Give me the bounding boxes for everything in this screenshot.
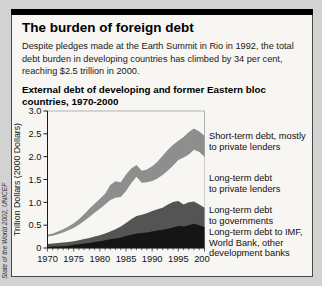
legend-label-line: Long-term debt xyxy=(209,173,280,184)
x-tick-label: 1985 xyxy=(116,254,137,264)
legend-label-long-term-governments: Long-term debtto governments xyxy=(209,205,273,226)
legend-label-line: Short-term debt, mostly xyxy=(209,131,306,142)
legend-label-line: to governments xyxy=(209,216,273,227)
chart-legend: Short-term debt, mostlyto private lender… xyxy=(209,0,321,286)
x-tick-label: 1995 xyxy=(168,254,189,264)
legend-label-line: development banks xyxy=(209,248,303,259)
source-credit: State of the World 2002, UNICEF xyxy=(1,183,8,279)
y-tick-label: 0 xyxy=(36,243,41,253)
legend-label-short-term: Short-term debt, mostlyto private lender… xyxy=(209,131,306,152)
x-tick-label: 1990 xyxy=(142,254,163,264)
y-tick-label: 1.0 xyxy=(29,198,42,208)
y-tick-label: 0.5 xyxy=(29,220,42,230)
y-tick-label: 1.5 xyxy=(29,175,42,185)
legend-label-line: to private lenders xyxy=(209,184,280,195)
y-tick-label: 2.5 xyxy=(29,129,42,139)
legend-label-line: World Bank, other xyxy=(209,238,303,249)
legend-label-line: Long-term debt to IMF, xyxy=(209,227,303,238)
legend-label-long-term-private: Long-term debtto private lenders xyxy=(209,173,280,194)
y-tick-label: 2.0 xyxy=(29,152,42,162)
legend-label-line: to private lenders xyxy=(209,142,306,153)
y-axis-label: Trillion Dollars (2000 Dollars) xyxy=(14,123,22,236)
y-tick-label: 3.0 xyxy=(29,106,42,116)
x-tick-label: 1975 xyxy=(63,254,84,264)
page-title: The burden of foreign debt xyxy=(22,20,194,35)
stacked-area-chart: 00.51.01.52.02.53.0197019751980198519901… xyxy=(14,106,210,268)
legend-label-line: Long-term debt xyxy=(209,205,273,216)
legend-label-long-term-imf: Long-term debt to IMF,World Bank, otherd… xyxy=(209,227,303,259)
x-tick-label: 2000 xyxy=(194,254,210,264)
x-tick-label: 1980 xyxy=(89,254,110,264)
x-tick-label: 1970 xyxy=(37,254,58,264)
infographic-panel: The burden of foreign debt Despite pledg… xyxy=(0,0,322,286)
